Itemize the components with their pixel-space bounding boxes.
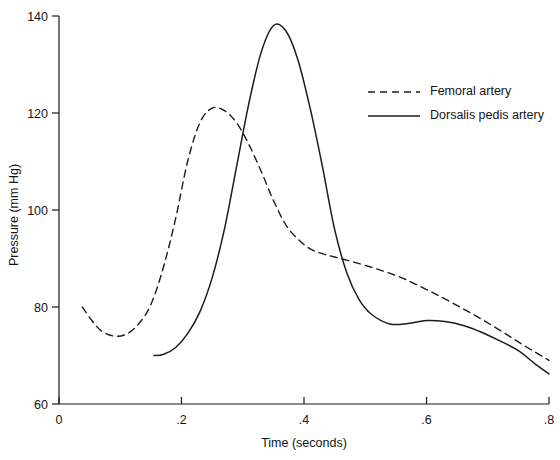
x-tick-label: .6: [421, 413, 431, 427]
x-tick-group: 0.2.4.6.8: [56, 397, 555, 427]
x-tick-label: .4: [299, 413, 309, 427]
y-tick-label: 120: [27, 107, 48, 121]
x-axis: 0.2.4.6.8 Time (seconds): [56, 397, 555, 450]
y-tick-group: 6080100120140: [27, 10, 59, 412]
series-line-1: [82, 107, 549, 360]
x-tick-label: .8: [544, 413, 554, 427]
chart-canvas: 6080100120140 Pressure (mm Hg) 0.2.4.6.8…: [0, 0, 560, 460]
series-line-2: [154, 24, 549, 374]
x-tick-label: 0: [56, 413, 63, 427]
series-group: [82, 24, 549, 374]
y-axis: 6080100120140 Pressure (mm Hg): [7, 10, 59, 412]
legend-label-2: Dorsalis pedis artery: [430, 108, 545, 122]
pressure-waveform-chart: 6080100120140 Pressure (mm Hg) 0.2.4.6.8…: [0, 0, 560, 460]
y-tick-label: 60: [34, 398, 48, 412]
x-axis-title: Time (seconds): [261, 436, 347, 450]
chart-legend: Femoral arteryDorsalis pedis artery: [368, 84, 545, 122]
y-tick-label: 100: [27, 204, 48, 218]
x-tick-label: .2: [176, 413, 186, 427]
y-tick-label: 140: [27, 10, 48, 24]
y-tick-label: 80: [34, 301, 48, 315]
legend-label-1: Femoral artery: [430, 84, 512, 98]
y-axis-title: Pressure (mm Hg): [7, 164, 21, 266]
